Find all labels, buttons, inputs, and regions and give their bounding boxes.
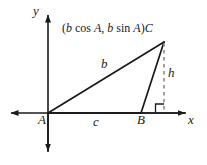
- coord-point-c: C: [145, 21, 153, 35]
- coord-b-second: b: [107, 21, 113, 35]
- triangle-side-a: [141, 42, 164, 113]
- coord-a-second: A: [133, 21, 140, 35]
- right-angle-marker-icon: [156, 104, 165, 113]
- x-axis-label: x: [188, 113, 194, 126]
- coord-sin: sin: [116, 21, 130, 35]
- coord-cos: cos: [75, 21, 91, 35]
- point-c-coordinate-label: (b cos A, b sin A)C: [62, 22, 153, 34]
- coord-b-first: b: [66, 21, 72, 35]
- side-label-h: h: [168, 66, 175, 79]
- side-label-b: b: [101, 57, 108, 70]
- geometry-figure: (b cos A, b sin A)C y x A B b c h: [0, 0, 207, 165]
- vertex-label-a: A: [38, 113, 46, 126]
- vertex-label-b: B: [137, 113, 145, 126]
- y-axis-label: y: [33, 4, 39, 17]
- triangle-side-b: [48, 42, 164, 113]
- side-label-c: c: [93, 115, 99, 128]
